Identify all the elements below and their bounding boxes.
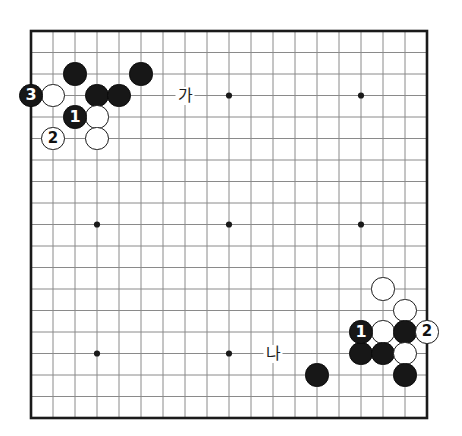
stone-black[interactable] xyxy=(129,62,152,85)
stone-black[interactable] xyxy=(349,342,372,365)
stone-black[interactable] xyxy=(371,342,394,365)
star-point xyxy=(226,221,232,227)
stone-black[interactable] xyxy=(393,363,416,386)
label-na[interactable]: 나 xyxy=(264,345,283,363)
stone-move-number: 2 xyxy=(422,324,432,339)
star-point xyxy=(94,350,100,356)
stone-black[interactable] xyxy=(393,320,416,343)
go-board-diagram: 31212 가나 xyxy=(0,0,462,436)
stone-move-number: 3 xyxy=(25,87,36,103)
label-ga[interactable]: 가 xyxy=(176,87,195,105)
star-point xyxy=(226,350,232,356)
star-point xyxy=(94,221,100,227)
stone-white[interactable] xyxy=(41,84,64,107)
stone-white[interactable] xyxy=(393,299,416,322)
star-point xyxy=(358,92,364,98)
stone-black-move-1[interactable]: 1 xyxy=(63,105,86,128)
stone-black[interactable] xyxy=(63,62,86,85)
stone-black-move-3[interactable]: 3 xyxy=(19,84,42,107)
stone-black[interactable] xyxy=(107,84,130,107)
stone-black[interactable] xyxy=(85,84,108,107)
stone-move-number: 1 xyxy=(355,323,366,339)
star-point xyxy=(358,221,364,227)
stone-black[interactable] xyxy=(305,363,328,386)
stone-white[interactable] xyxy=(371,277,394,300)
stone-move-number: 1 xyxy=(69,108,80,124)
stone-white-move-2[interactable]: 2 xyxy=(415,320,438,343)
stone-black-move-1[interactable]: 1 xyxy=(349,320,372,343)
stone-move-number: 2 xyxy=(48,130,58,145)
stone-white[interactable] xyxy=(371,320,394,343)
stone-white[interactable] xyxy=(85,105,108,128)
star-point xyxy=(226,92,232,98)
stone-white-move-2[interactable]: 2 xyxy=(41,127,64,150)
stone-white[interactable] xyxy=(85,127,108,150)
stone-white[interactable] xyxy=(393,342,416,365)
